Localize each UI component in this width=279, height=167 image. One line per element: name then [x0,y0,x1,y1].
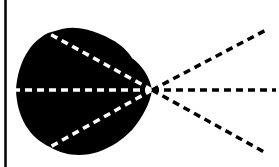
diagram-svg [0,0,279,167]
diagram-canvas [0,0,279,167]
black-blob-shape [16,28,152,155]
outer-black-dashed-rays [152,30,276,153]
outer-dashed-ray-0 [152,30,266,90]
outer-dashed-ray-2 [152,90,266,153]
